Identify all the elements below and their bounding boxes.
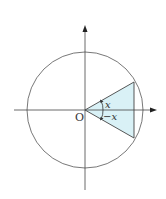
x-axis-arrow-icon: [150, 108, 157, 113]
origin-label: O: [75, 111, 84, 124]
angle-upper-label: x: [105, 99, 111, 110]
angle-lower-label: −x: [103, 111, 117, 122]
y-axis-arrow-icon: [83, 25, 88, 32]
unit-circle-diagram: O x −x: [0, 0, 166, 199]
